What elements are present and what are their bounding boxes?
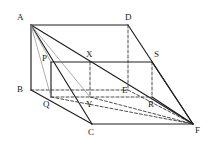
vertex-label-q: Q [43,100,50,109]
edge-e-f [128,90,193,124]
vertex-label-f: F [195,126,200,135]
geometry-figure: ADBECFPXSQYR [0,0,215,145]
vertex-label-a: A [17,13,24,22]
vertex-label-d: D [125,13,132,22]
edge-a-c [31,25,92,124]
figure-canvas [0,0,215,145]
vertex-label-p: P [42,54,47,63]
edge-b-c [31,90,92,124]
vertex-label-x: X [86,50,93,59]
vertex-label-e: E [122,86,128,95]
vertex-label-r: R [148,100,154,109]
vertex-label-b: B [17,85,23,94]
vertex-label-y: Y [86,100,93,109]
edge-a-y [31,25,90,97]
edge-a-f [31,25,193,124]
edge-r-f [152,97,193,124]
vertex-label-s: S [154,50,159,59]
vertex-label-c: C [88,128,94,137]
